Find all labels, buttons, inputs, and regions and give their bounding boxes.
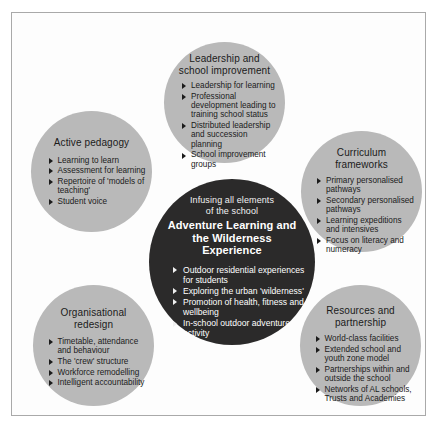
- list-item: Learning to learn: [49, 156, 146, 165]
- list-item: Secondary personalised pathways: [317, 196, 416, 215]
- node-organisational-redesign: Organisational redesign Timetable, atten…: [33, 285, 154, 406]
- list-item: Partnerships within and outside the scho…: [316, 365, 415, 384]
- list-item: School improvement groups: [182, 150, 277, 169]
- list-item: Extended school and youth zone model: [316, 345, 415, 364]
- list-item: Professional development leading to trai…: [182, 92, 277, 120]
- list-item: Leadership for learning: [182, 81, 277, 90]
- bullet-list: Leadership for learning Professional dev…: [172, 81, 277, 170]
- list-item: Exploring the urban 'wilderness': [173, 286, 307, 296]
- list-item: Repertoire of 'models of teaching': [49, 177, 146, 196]
- node-content: Infusing all elements of the school Adve…: [149, 179, 315, 345]
- list-item: Intelligent accountability: [49, 378, 148, 387]
- node-active-pedagogy: Active pedagogy Learning to learn Assess…: [31, 111, 152, 232]
- list-item: Student voice: [49, 197, 146, 206]
- node-content: Active pedagogy Learning to learn Assess…: [31, 111, 152, 232]
- node-resources-and-partnership: Resources and partnership World-class fa…: [300, 285, 421, 406]
- list-item: Promotion of health, fitness and wellbei…: [173, 297, 307, 317]
- node-content: Curriculum frameworks Primary personalis…: [301, 131, 422, 252]
- list-item: Assessment for learning: [49, 166, 146, 175]
- bullet-list: Learning to learn Assessment for learnin…: [38, 156, 146, 208]
- node-title: Organisational redesign: [61, 307, 127, 330]
- bullet-list: Primary personalised pathways Secondary …: [307, 176, 416, 256]
- node-title: Active pedagogy: [54, 137, 129, 149]
- list-item: Networks of AL schools, Trusts and Acade…: [316, 385, 415, 404]
- list-item: Focus on literacy and numeracy: [317, 236, 416, 255]
- diagram-canvas: Leadership and school improvement Leader…: [0, 0, 437, 429]
- node-curriculum-frameworks: Curriculum frameworks Primary personalis…: [301, 131, 422, 252]
- list-item: Distributed leadership and succession pl…: [182, 121, 277, 149]
- node-content: Organisational redesign Timetable, atten…: [33, 285, 154, 406]
- node-title: Leadership and school improvement: [179, 53, 270, 76]
- list-item: Outdoor residential experiences for stud…: [173, 265, 307, 285]
- bullet-list: Outdoor residential experiences for stud…: [157, 265, 307, 340]
- list-item: Timetable, attendance and behaviour: [49, 337, 148, 356]
- node-title: Resources and partnership: [326, 305, 395, 328]
- hub-headline: Adventure Learning and the Wilderness Ex…: [165, 219, 299, 257]
- list-item: The 'crew' structure: [49, 357, 148, 366]
- node-leadership-and-school-improvement: Leadership and school improvement Leader…: [164, 42, 285, 163]
- list-item: Primary personalised pathways: [317, 176, 416, 195]
- list-item: In-school outdoor adventure activity: [173, 318, 307, 338]
- diagram-frame: Leadership and school improvement Leader…: [11, 12, 426, 416]
- bullet-list: World-class facilities Extended school a…: [307, 334, 415, 405]
- node-content: Leadership and school improvement Leader…: [164, 42, 285, 163]
- node-content: Resources and partnership World-class fa…: [300, 285, 421, 406]
- node-central-hub: Infusing all elements of the school Adve…: [149, 179, 315, 345]
- hub-kicker: Infusing all elements of the school: [190, 195, 274, 216]
- list-item: World-class facilities: [316, 334, 415, 343]
- node-title: Curriculum frameworks: [335, 147, 388, 170]
- list-item: Workforce remodelling: [49, 368, 148, 377]
- bullet-list: Timetable, attendance and behaviour The …: [40, 337, 148, 389]
- list-item: Learning expeditions and intensives: [317, 216, 416, 235]
